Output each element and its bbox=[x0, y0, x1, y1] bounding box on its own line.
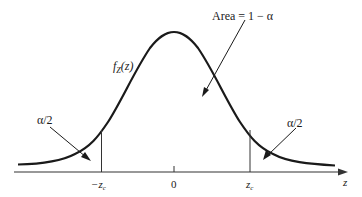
zero-tick-label: 0 bbox=[171, 178, 177, 190]
diagram-canvas: Area = 1 − α fZ(z) α/2 α/2 −zc 0 zc z bbox=[0, 0, 362, 197]
left-tail-arrow bbox=[50, 127, 86, 157]
bell-curve bbox=[18, 32, 335, 166]
center-area-arrow bbox=[205, 20, 245, 92]
z-axis-arrowhead-icon bbox=[338, 169, 348, 176]
normal-distribution-figure: Area = 1 − α fZ(z) α/2 α/2 −zc 0 zc z bbox=[0, 0, 362, 197]
pos-zc-tick-label: zc bbox=[245, 178, 254, 192]
left-tail-arrowhead-icon bbox=[81, 152, 91, 161]
center-area-arrowhead-icon bbox=[202, 87, 209, 97]
curve-label: fZ(z) bbox=[113, 59, 133, 75]
center-area-label: Area = 1 − α bbox=[212, 9, 274, 23]
neg-zc-tick-label: −zc bbox=[91, 178, 107, 192]
right-tail-label: α/2 bbox=[287, 116, 303, 130]
left-tail-label: α/2 bbox=[37, 113, 53, 127]
z-axis-label: z bbox=[342, 176, 348, 188]
right-tail-arrow bbox=[268, 128, 296, 155]
